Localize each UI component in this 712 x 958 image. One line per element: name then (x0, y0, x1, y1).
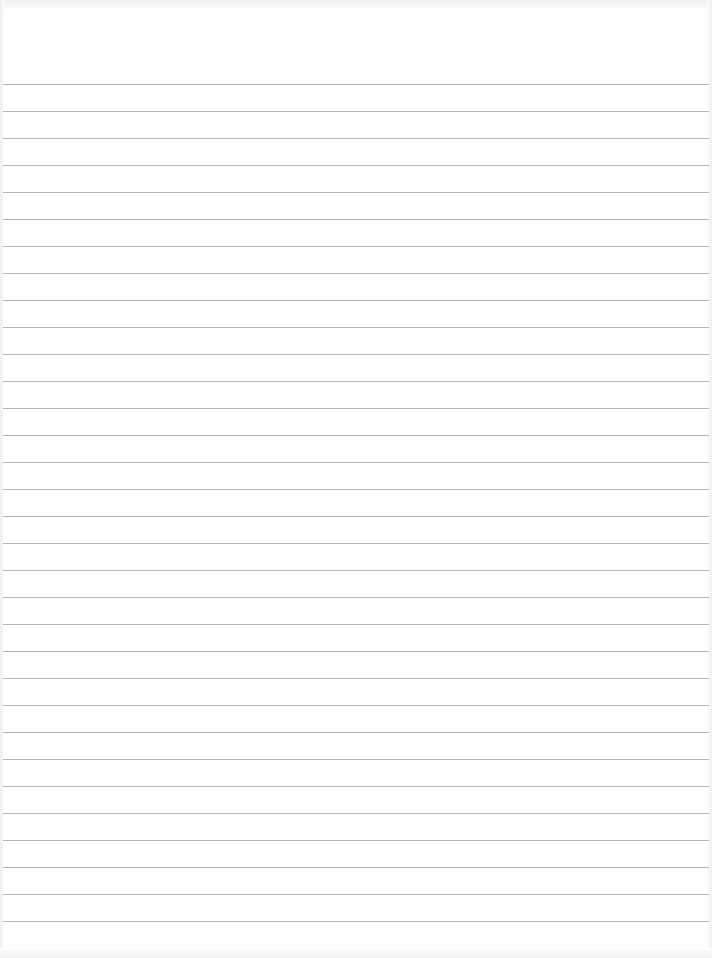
ruled-line (3, 543, 709, 544)
ruled-line (3, 489, 709, 490)
ruled-line (3, 624, 709, 625)
ruled-line (3, 732, 709, 733)
ruled-line (3, 786, 709, 787)
ruled-line (3, 435, 709, 436)
ruled-line (3, 597, 709, 598)
ruled-line (3, 138, 709, 139)
top-scan-edge (0, 0, 712, 10)
ruled-line (3, 354, 709, 355)
ruled-line (3, 273, 709, 274)
ruled-line (3, 759, 709, 760)
ruled-line (3, 192, 709, 193)
ruled-line (3, 921, 709, 922)
right-scan-edge (707, 0, 712, 958)
ruled-line (3, 165, 709, 166)
ruled-line (3, 381, 709, 382)
ruled-line (3, 516, 709, 517)
ruled-line (3, 327, 709, 328)
left-scan-edge (0, 0, 4, 958)
ruled-line (3, 705, 709, 706)
ruled-line (3, 84, 709, 85)
bottom-scan-edge (0, 948, 712, 958)
ruled-line (3, 246, 709, 247)
ruled-line (3, 111, 709, 112)
ruled-line (3, 840, 709, 841)
ruled-line (3, 462, 709, 463)
ruled-line (3, 408, 709, 409)
ruled-line (3, 894, 709, 895)
ruled-line (3, 219, 709, 220)
lined-paper-page (0, 0, 712, 958)
ruled-line (3, 813, 709, 814)
ruled-line (3, 867, 709, 868)
ruled-line (3, 300, 709, 301)
ruled-line (3, 651, 709, 652)
ruled-line (3, 678, 709, 679)
ruled-line (3, 570, 709, 571)
